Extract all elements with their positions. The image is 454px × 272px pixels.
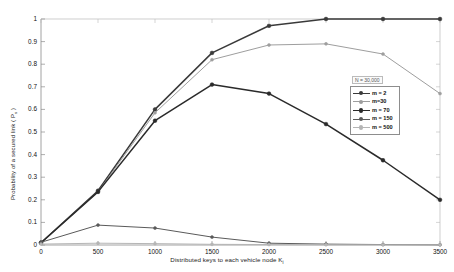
legend-item-2[interactable]: m = 70 bbox=[353, 106, 397, 115]
legend-item-4[interactable]: m = 500 bbox=[353, 123, 397, 132]
x-tick-label: 500 bbox=[78, 248, 118, 255]
legend-label: m = 500 bbox=[372, 125, 393, 131]
series-line bbox=[41, 243, 440, 245]
data-point bbox=[153, 119, 157, 123]
data-point bbox=[267, 24, 271, 28]
legend-title: N = 30,000 bbox=[352, 76, 383, 84]
data-point bbox=[438, 17, 442, 21]
data-point bbox=[97, 224, 100, 227]
y-tick-label: 0.4 bbox=[15, 151, 37, 158]
data-point bbox=[210, 51, 214, 55]
data-point bbox=[439, 92, 442, 95]
data-point bbox=[325, 42, 328, 45]
legend-label: m = 70 bbox=[372, 108, 390, 114]
data-point bbox=[211, 236, 214, 239]
legend-swatch-icon bbox=[353, 107, 370, 114]
series-4 bbox=[40, 242, 442, 247]
series-line bbox=[41, 225, 440, 245]
data-point bbox=[97, 242, 100, 245]
data-point bbox=[438, 198, 442, 202]
data-point bbox=[324, 122, 328, 126]
data-point bbox=[268, 243, 271, 246]
x-tick-label: 0 bbox=[21, 248, 61, 255]
legend-swatch-icon bbox=[353, 98, 370, 105]
data-point bbox=[210, 83, 214, 87]
data-point bbox=[96, 190, 100, 194]
data-point bbox=[382, 53, 385, 56]
chart-figure bbox=[0, 0, 454, 272]
data-point bbox=[381, 17, 385, 21]
data-point bbox=[154, 227, 157, 230]
x-tick-label: 3000 bbox=[363, 248, 403, 255]
data-point bbox=[324, 17, 328, 21]
legend-swatch-icon bbox=[353, 124, 370, 131]
series-1 bbox=[40, 42, 442, 244]
x-axis-label-subscript: i bbox=[283, 260, 284, 265]
data-point bbox=[211, 58, 214, 61]
data-point bbox=[439, 243, 442, 246]
data-point bbox=[153, 108, 157, 112]
legend-label: m = 150 bbox=[372, 116, 393, 122]
y-tick-label: 1 bbox=[15, 15, 37, 22]
x-tick-label: 1000 bbox=[135, 248, 175, 255]
legend-swatch-icon bbox=[353, 116, 370, 123]
series-line bbox=[41, 44, 440, 243]
y-tick-label: 0.6 bbox=[15, 105, 37, 112]
legend-item-0[interactable]: m = 2 bbox=[353, 89, 397, 98]
y-tick-label: 0.8 bbox=[15, 60, 37, 67]
x-tick-label: 1500 bbox=[192, 248, 232, 255]
y-tick-label: 0.5 bbox=[15, 128, 37, 135]
y-tick-label: 0.7 bbox=[15, 83, 37, 90]
y-tick-label: 0 bbox=[15, 241, 37, 248]
y-tick-label: 0.3 bbox=[15, 173, 37, 180]
data-point bbox=[268, 43, 271, 46]
y-tick-label: 0.1 bbox=[15, 218, 37, 225]
data-point bbox=[211, 243, 214, 246]
x-tick-label: 2500 bbox=[306, 248, 346, 255]
legend-swatch-icon bbox=[353, 90, 370, 97]
data-point bbox=[154, 242, 157, 245]
x-axis-label-text: Distributed keys to each vehicle node K bbox=[170, 256, 282, 263]
x-axis-label: Distributed keys to each vehicle node Ki bbox=[0, 256, 454, 265]
data-point bbox=[267, 92, 271, 96]
x-tick-label: 2000 bbox=[249, 248, 289, 255]
y-tick-label: 0.2 bbox=[15, 196, 37, 203]
data-point bbox=[381, 158, 385, 162]
y-tick-label: 0.9 bbox=[15, 38, 37, 45]
data-point bbox=[154, 111, 157, 114]
data-point bbox=[382, 243, 385, 246]
data-point bbox=[40, 243, 43, 246]
x-tick-label: 3500 bbox=[420, 248, 454, 255]
legend-label: m = 2 bbox=[372, 91, 386, 97]
chart-legend: m = 2m=30m = 70m = 150m = 500 bbox=[350, 86, 400, 135]
data-point bbox=[325, 243, 328, 246]
legend-item-1[interactable]: m=30 bbox=[353, 98, 397, 107]
legend-item-3[interactable]: m = 150 bbox=[353, 115, 397, 124]
legend-label: m=30 bbox=[372, 99, 386, 105]
